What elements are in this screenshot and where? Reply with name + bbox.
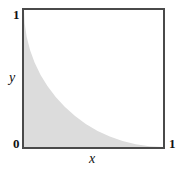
figure-container: 1 0 1 y x [0, 0, 187, 169]
origin-tick-label-0: 0 [13, 137, 20, 150]
y-axis-label: y [9, 71, 15, 85]
x-axis-label: x [89, 152, 95, 166]
plot-frame [22, 8, 165, 149]
quarter-circle-area-path [24, 10, 163, 147]
x-axis-tick-label-1: 1 [169, 137, 176, 150]
shaded-quarter-disk-region [24, 10, 163, 147]
y-axis-tick-label-1: 1 [13, 8, 20, 21]
